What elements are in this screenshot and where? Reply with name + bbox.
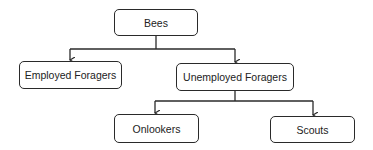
node-scouts: Scouts (270, 116, 355, 143)
node-label: Employed Foragers (25, 69, 117, 81)
node-label: Bees (144, 17, 168, 29)
node-label: Scouts (296, 124, 328, 136)
node-onlookers: Onlookers (114, 114, 199, 143)
node-label: Onlookers (133, 123, 181, 135)
node-bees: Bees (114, 9, 198, 36)
bee-hierarchy-diagram: Bees Employed Foragers Unemployed Forage… (0, 0, 373, 150)
node-unemployed-foragers: Unemployed Foragers (176, 63, 294, 91)
node-employed-foragers: Employed Foragers (19, 61, 122, 89)
node-label: Unemployed Foragers (183, 71, 287, 83)
